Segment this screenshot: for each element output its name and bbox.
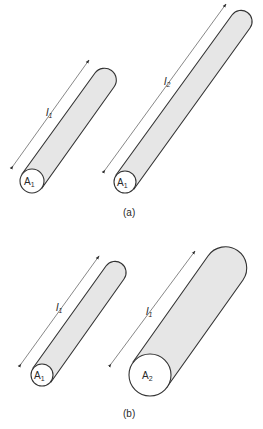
caption-b: (b) (123, 408, 135, 419)
wire-a2: l2 A1 (105, 4, 252, 193)
wire-body (33, 261, 126, 382)
wire-b1: l1 A1 (21, 256, 126, 386)
length-label: l2 (164, 75, 170, 88)
wire-body (116, 10, 252, 189)
wire-b2: l1 A2 (111, 247, 247, 396)
length-label: l1 (46, 106, 52, 119)
resistance-wires-diagram: l1 A1 l2 A1 (a) l1 A1 l1 A2 (b) (0, 0, 263, 429)
wire-a1: l1 A1 (13, 60, 116, 193)
length-label: l1 (56, 301, 62, 314)
caption-a: (a) (123, 207, 135, 218)
length-label: l1 (146, 305, 152, 318)
